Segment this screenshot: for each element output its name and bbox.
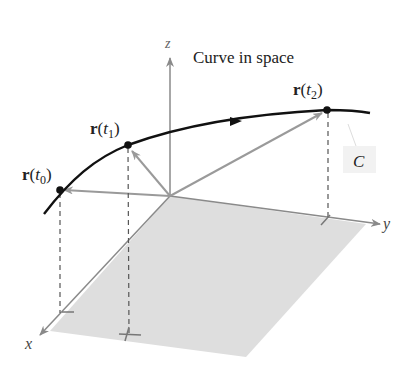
xy-plane [50,196,366,357]
point-r-t1 [124,141,132,149]
label-r-t2: r(t2) [293,80,323,102]
diagram-title: Curve in space [193,48,294,67]
z-axis-label: z [164,36,171,51]
label-r-t0: r(t0) [22,165,52,187]
x-axis-label: x [24,335,32,352]
vector-r-t1 [132,151,170,196]
point-r-t0 [56,186,64,194]
point-r-t2 [323,106,331,114]
y-axis-label: y [381,215,391,233]
vector-r-t0 [64,190,170,196]
curve-label-leader [348,124,356,146]
label-r-t1: r(t1) [90,119,120,141]
curve-label: C [353,152,365,171]
cross-tick-h [119,334,141,335]
space-curve-diagram: C Curve in space z y x r(t0) r(t1) r(t2) [0,0,406,377]
